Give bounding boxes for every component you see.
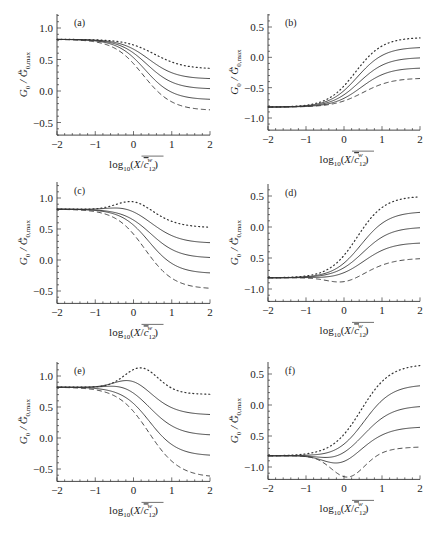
figure-six-panels: −2−10121.00.50.0−0.5(a)G0 / G0,max0log10…: [0, 0, 439, 533]
y-axis-label: G0 / G0,max0: [227, 49, 243, 95]
curve-dashed: [57, 209, 210, 288]
curve-solid: [268, 228, 420, 278]
curve-dashed: [268, 79, 420, 108]
curve-solid: [268, 58, 420, 107]
curve-solid: [268, 243, 420, 278]
curve-solid: [57, 209, 210, 257]
panel-label: (a): [74, 17, 85, 29]
x-tick-label: −1: [89, 138, 101, 150]
curve-dotted: [268, 197, 420, 278]
y-tick-label: 0.0: [250, 221, 264, 233]
y-tick-label: 0.5: [39, 223, 53, 235]
y-tick-label: 1.0: [39, 370, 53, 382]
x-tick-label: 2: [207, 138, 213, 150]
x-tick-label: −1: [300, 133, 312, 145]
curve-dotted: [268, 38, 420, 107]
panel-label: (d): [285, 187, 297, 199]
x-axis-label: log10(X/c12w): [320, 151, 369, 168]
x-tick-label: 0: [131, 306, 137, 318]
panel-f: −2−10120.50.00.5−1.0(f)G0 / G0,max0log10…: [227, 362, 423, 517]
x-tick-label: −2: [51, 306, 63, 318]
y-tick-label: 0.5: [250, 21, 264, 33]
y-axis-label: G0 / G0,max0: [16, 51, 32, 97]
x-axis-label: log10(X/c12w): [320, 500, 369, 517]
panel-label: (c): [74, 185, 85, 197]
x-tick-label: 2: [207, 484, 213, 496]
y-tick-label: 0.5: [39, 401, 53, 413]
y-tick-label: −0.5: [33, 463, 53, 475]
y-tick-label: 1.0: [39, 22, 53, 34]
curve-solid: [57, 386, 210, 435]
y-tick-label: 0.0: [39, 254, 53, 266]
x-tick-label: −1: [89, 306, 101, 318]
x-tick-label: 0: [341, 482, 347, 494]
x-tick-label: −2: [51, 138, 63, 150]
x-tick-label: 1: [379, 133, 385, 145]
panel-label: (b): [285, 17, 297, 29]
x-tick-label: 2: [417, 482, 423, 494]
curve-dashed: [268, 447, 420, 477]
curve-solid: [268, 407, 420, 458]
x-tick-label: 0: [131, 484, 137, 496]
panel-b: −2−10120.50.0−0.5−1.0(b)G0 / G0,max0log1…: [227, 14, 423, 168]
x-tick-label: −2: [51, 484, 63, 496]
panel-e: −2−10121.00.50.0−0.5(e)G0 / G0,max0log10…: [16, 362, 213, 519]
x-tick-label: −1: [89, 484, 101, 496]
x-tick-label: 0: [341, 133, 347, 145]
y-tick-label: 0.0: [39, 432, 53, 444]
curve-solid: [57, 39, 210, 99]
x-tick-label: −2: [262, 133, 274, 145]
y-tick-label: 0.5: [250, 430, 264, 442]
x-tick-label: 1: [379, 304, 385, 316]
y-axis-label: G0 / G0,max0: [16, 399, 32, 445]
curve-solid: [57, 381, 210, 415]
y-tick-label: −0.5: [33, 285, 53, 297]
x-axis-label: log10(X/c12w): [320, 322, 369, 339]
y-tick-label: −0.5: [33, 117, 53, 129]
x-axis-label: log10(X/c12w): [109, 502, 158, 519]
y-axis-label: G0 / G0,max0: [16, 220, 32, 266]
y-tick-label: −1.0: [244, 461, 264, 473]
y-tick-label: 0.0: [39, 85, 53, 97]
curve-solid: [268, 386, 420, 456]
curve-solid: [268, 427, 420, 463]
x-axis-label: log10(X/c12w): [109, 324, 158, 341]
x-tick-label: 1: [169, 138, 175, 150]
y-tick-label: 1.0: [39, 192, 53, 204]
y-tick-label: −1.0: [244, 283, 264, 295]
x-tick-label: 2: [417, 133, 423, 145]
panel-c: −2−10121.00.50.0−0.5(c)G0 / G0,max0log10…: [16, 182, 213, 341]
x-tick-label: 0: [341, 304, 347, 316]
panel-label: (e): [74, 365, 85, 377]
y-tick-label: −1.0: [244, 112, 264, 124]
curve-solid: [57, 387, 210, 455]
y-tick-label: 0.5: [250, 190, 264, 202]
x-tick-label: −1: [300, 482, 312, 494]
x-tick-label: 1: [169, 306, 175, 318]
y-tick-label: 0.5: [250, 252, 264, 264]
x-tick-label: −2: [262, 304, 274, 316]
panel-label: (f): [285, 365, 295, 377]
y-tick-label: 0.0: [250, 399, 264, 411]
y-tick-label: 0.5: [250, 368, 264, 380]
x-tick-label: 2: [207, 306, 213, 318]
y-axis-label: G0 / G0,max0: [227, 220, 243, 266]
x-tick-label: −2: [262, 482, 274, 494]
x-tick-label: 2: [417, 304, 423, 316]
y-axis-label: G0 / G0,max0: [227, 398, 243, 444]
y-tick-label: 0.5: [39, 54, 53, 66]
curve-dashed: [57, 40, 210, 110]
panel-d: −2−10120.50.00.5−1.0(d)G0 / G0,max0log10…: [227, 184, 423, 339]
y-tick-label: −0.5: [244, 82, 264, 94]
panel-a: −2−10121.00.50.0−0.5(a)G0 / G0,max0log10…: [16, 14, 213, 173]
x-tick-label: −1: [300, 304, 312, 316]
curve-dashed: [268, 259, 420, 282]
x-axis-label: log10(X/c12w): [109, 156, 158, 173]
y-tick-label: 0.0: [250, 51, 264, 63]
x-tick-label: 1: [169, 484, 175, 496]
curve-solid: [57, 209, 210, 273]
curve-dotted: [57, 202, 210, 228]
x-tick-label: 0: [131, 138, 137, 150]
x-tick-label: 1: [379, 482, 385, 494]
